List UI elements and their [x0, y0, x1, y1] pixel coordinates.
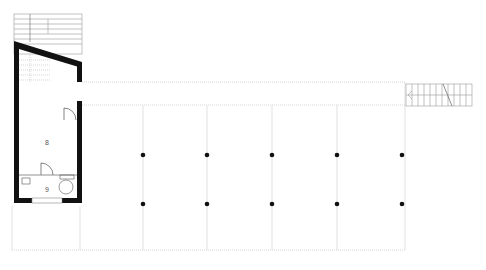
floor-plan: 8 9: [0, 0, 486, 270]
building-walls: [14, 41, 82, 203]
right-stair: [406, 84, 472, 106]
interior-stair: [19, 55, 50, 82]
columns: [141, 153, 405, 207]
structural-grid: [12, 82, 405, 250]
dotted-outline: [12, 82, 406, 250]
room-label: 8: [45, 139, 49, 146]
bottom-window: [32, 198, 62, 203]
room-label: 9: [45, 186, 49, 193]
